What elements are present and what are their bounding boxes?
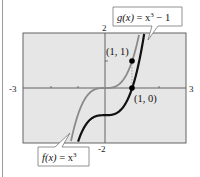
x-tick-min: -3 [9,84,17,94]
cubic-graph: -3 3 2 -2 (1, 1) (1, 0) g(x) = x3 − 1 f(… [0,0,200,177]
y-tick-min: -2 [98,144,106,154]
x-tick-max: 3 [189,84,194,94]
point-label-1-1: (1, 1) [106,46,129,58]
f-label: f(x) = x3 [42,151,77,164]
g-label: g(x) = x3 − 1 [117,11,170,24]
point-label-1-0: (1, 0) [134,93,157,105]
y-tick-max: 2 [102,23,107,33]
point-1-1 [129,58,135,64]
point-1-0 [129,85,135,91]
